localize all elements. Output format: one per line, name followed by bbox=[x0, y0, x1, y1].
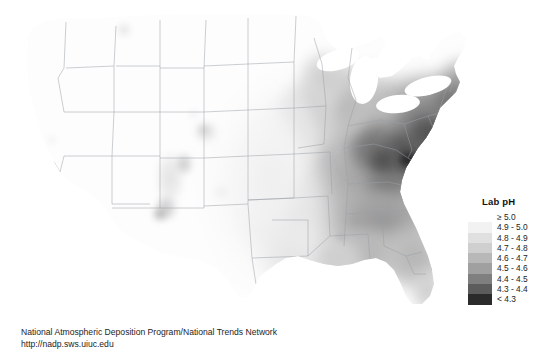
legend-row: 4.7 - 4.8 bbox=[468, 243, 548, 253]
legend-row: ≥ 5.0 bbox=[468, 212, 548, 222]
legend-row: 4.4 - 4.5 bbox=[468, 274, 548, 284]
united-states-ph-contour-map[interactable] bbox=[8, 8, 478, 318]
legend-swatch-4-3-4-4 bbox=[468, 284, 492, 294]
legend-row: < 4.3 bbox=[468, 294, 548, 304]
legend-label: 4.5 - 4.6 bbox=[497, 263, 528, 273]
legend-label: ≥ 5.0 bbox=[497, 212, 516, 222]
legend-swatch-4-7-4-8 bbox=[468, 243, 492, 253]
legend-swatch-4-6-4-7 bbox=[468, 253, 492, 263]
legend-title: Lab pH bbox=[482, 196, 548, 207]
legend-label: < 4.3 bbox=[497, 294, 516, 304]
legend-swatch-4-8-4-9 bbox=[468, 233, 492, 243]
legend-row: 4.9 - 5.0 bbox=[468, 222, 548, 232]
legend: Lab pH ≥ 5.0 4.9 - 5.0 4.8 - 4.9 4.7 - 4… bbox=[468, 196, 548, 305]
legend-row: 4.6 - 4.7 bbox=[468, 253, 548, 263]
credit-url[interactable]: http://nadp.sws.uiuc.edu bbox=[21, 338, 441, 350]
legend-row: 4.5 - 4.6 bbox=[468, 263, 548, 273]
credits: National Atmospheric Deposition Program/… bbox=[21, 326, 441, 351]
legend-label: 4.4 - 4.5 bbox=[497, 274, 528, 284]
legend-entry-list: ≥ 5.0 4.9 - 5.0 4.8 - 4.9 4.7 - 4.8 4.6 … bbox=[468, 212, 548, 305]
legend-label: 4.9 - 5.0 bbox=[497, 222, 528, 232]
legend-label: 4.3 - 4.4 bbox=[497, 284, 528, 294]
legend-swatch-lt-4-3 bbox=[468, 294, 492, 304]
legend-swatch-4-9-5-0 bbox=[468, 222, 492, 232]
ph-map-figure: Lab pH ≥ 5.0 4.9 - 5.0 4.8 - 4.9 4.7 - 4… bbox=[0, 0, 552, 364]
legend-swatch-4-4-4-5 bbox=[468, 274, 492, 284]
legend-label: 4.7 - 4.8 bbox=[497, 243, 528, 253]
map-area[interactable] bbox=[8, 8, 478, 318]
legend-row: 4.3 - 4.4 bbox=[468, 284, 548, 294]
legend-swatch-ge-5-0 bbox=[468, 212, 492, 222]
legend-label: 4.8 - 4.9 bbox=[497, 233, 528, 243]
legend-row: 4.8 - 4.9 bbox=[468, 233, 548, 243]
legend-swatch-4-5-4-6 bbox=[468, 263, 492, 273]
credit-organization: National Atmospheric Deposition Program/… bbox=[21, 326, 441, 338]
legend-label: 4.6 - 4.7 bbox=[497, 253, 528, 263]
